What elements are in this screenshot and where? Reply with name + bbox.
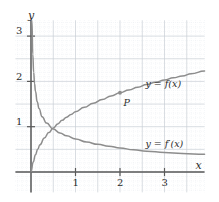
grid-minor (15, 20, 204, 192)
point-label-p: P (124, 97, 130, 108)
y-tick-label-3: 3 (16, 25, 22, 36)
x-tick-label-1: 1 (73, 177, 79, 188)
x-axis-label: x (196, 159, 202, 172)
figure-container: y x 1 2 3 1 2 3 y = f(x) y = f′(x) P (0, 0, 219, 202)
curve-label-f: y = f(x) (145, 78, 181, 89)
grid-major (15, 20, 204, 192)
y-tick-label-2: 2 (16, 71, 22, 82)
y-axis-label: y (28, 9, 34, 22)
tick-marks (27, 36, 165, 176)
x-tick-label-2: 2 (117, 177, 123, 188)
curve-label-f-prime: y = f′(x) (145, 138, 183, 149)
x-tick-label-3: 3 (162, 177, 168, 188)
point-marker-p (118, 91, 122, 95)
graph-canvas (0, 0, 219, 202)
y-tick-label-1: 1 (16, 116, 22, 127)
axes (15, 20, 204, 192)
